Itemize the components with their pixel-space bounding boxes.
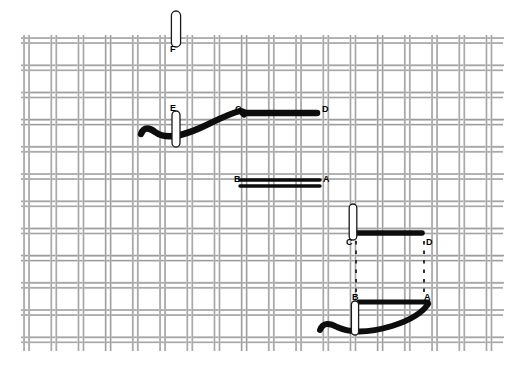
canvas-weave-over [438, 37, 458, 39]
canvas-vertical-thread [241, 35, 243, 351]
canvas-weave-over [166, 173, 186, 175]
canvas-weave-over [465, 227, 485, 229]
canvas-vertical-thread [164, 35, 166, 351]
canvas-weave-over [492, 37, 504, 39]
canvas-weave-over [139, 119, 159, 121]
canvas-weave-over [411, 255, 431, 257]
canvas-weave-over [166, 64, 186, 66]
canvas-weave-over [465, 282, 485, 284]
canvas-horizontal-thread [21, 260, 503, 262]
canvas-weave-over [139, 37, 159, 39]
canvas-weave-over [248, 255, 268, 257]
canvas-weave-over [30, 119, 50, 121]
canvas-weave-over [57, 173, 77, 175]
canvas-weave-over [329, 37, 349, 39]
canvas-weave-over [84, 64, 104, 66]
canvas-weave-over [193, 91, 213, 93]
canvas-weave-over [438, 146, 458, 148]
canvas-vertical-thread [327, 35, 329, 351]
canvas-weave-over [275, 309, 295, 311]
canvas-weave-over [193, 282, 213, 284]
canvas-vertical-thread [246, 35, 248, 351]
canvas-weave-over [302, 173, 322, 175]
canvas-vertical-thread [218, 35, 220, 351]
canvas-weave-over [465, 255, 485, 257]
canvas-horizontal-thread [21, 232, 503, 234]
canvas-weave-over [57, 200, 77, 202]
canvas-weave-over [30, 173, 50, 175]
canvas-weave-over [248, 200, 268, 202]
canvas-weave-over [193, 200, 213, 202]
canvas-horizontal-thread [21, 341, 503, 343]
canvas-weave-over [275, 282, 295, 284]
canvas-weave-over [112, 173, 132, 175]
canvas-weave-over [139, 91, 159, 93]
canvas-vertical-thread [110, 35, 112, 351]
canvas-vertical-thread [213, 35, 215, 351]
canvas-weave-over [84, 91, 104, 93]
needle-E [172, 111, 180, 147]
canvas-weave-over [193, 309, 213, 311]
canvas-weave-over [139, 200, 159, 202]
canvas-weave-over [384, 282, 404, 284]
canvas-weave-over [30, 146, 50, 148]
canvas-weave-over [329, 200, 349, 202]
canvas-weave-over [275, 37, 295, 39]
canvas-weave-over [166, 282, 186, 284]
canvas-weave-over [329, 173, 349, 175]
canvas-weave-over [329, 282, 349, 284]
point-label-b_mid: B [234, 175, 241, 184]
canvas-weave-over [492, 255, 504, 257]
canvas-weave-over [411, 336, 431, 338]
point-label-e: E [170, 104, 176, 113]
canvas-weave-over [166, 309, 186, 311]
canvas-weave-over [57, 146, 77, 148]
canvas-weave-over [166, 255, 186, 257]
canvas-weave-over [193, 336, 213, 338]
canvas-weave-over [275, 146, 295, 148]
point-label-b_low: B [352, 293, 359, 302]
canvas-vertical-thread [23, 35, 25, 351]
canvas-weave-over [465, 309, 485, 311]
canvas-weave-over [248, 309, 268, 311]
canvas-weave-over [30, 336, 50, 338]
canvas-weave-over [30, 200, 50, 202]
canvas-vertical-thread [82, 35, 84, 351]
canvas-weave-over [302, 282, 322, 284]
canvas-weave-over [166, 336, 186, 338]
canvas-weave-over [356, 200, 376, 202]
canvas-weave-over [275, 200, 295, 202]
canvas-weave-over [492, 173, 504, 175]
canvas-weave-over [248, 282, 268, 284]
canvas-weave-over [438, 336, 458, 338]
canvas-vertical-thread [191, 35, 193, 351]
canvas-vertical-thread [50, 35, 52, 351]
canvas-weave-over [220, 309, 240, 311]
canvas-weave-over [30, 309, 50, 311]
canvas-weave-over [492, 282, 504, 284]
canvas-weave-over [492, 227, 504, 229]
canvas-weave-over [302, 37, 322, 39]
canvas-weave-over [384, 146, 404, 148]
canvas-weave-over [465, 119, 485, 121]
canvas-weave-over [356, 64, 376, 66]
canvas-weave-over [329, 64, 349, 66]
canvas-weave-over [465, 37, 485, 39]
canvas-weave-over [112, 336, 132, 338]
canvas-weave-over [329, 227, 349, 229]
canvas-vertical-thread [295, 35, 297, 351]
canvas-weave-over [356, 309, 376, 311]
canvas-weave-over [411, 119, 431, 121]
canvas-weave-over [166, 227, 186, 229]
canvas-weave-over [139, 336, 159, 338]
canvas-weave-over [302, 255, 322, 257]
canvas-vertical-thread [77, 35, 79, 351]
canvas-weave-over [329, 146, 349, 148]
needle-C-low [349, 204, 357, 240]
canvas-weave-over [84, 146, 104, 148]
canvas-weave-over [57, 37, 77, 39]
canvas-weave-over [465, 146, 485, 148]
canvas-weave-over [84, 119, 104, 121]
canvas-weave-over [411, 173, 431, 175]
canvas-weave-over [57, 227, 77, 229]
